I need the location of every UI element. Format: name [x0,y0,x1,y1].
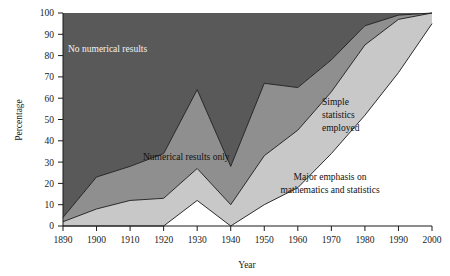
band-label-major-emphasis-line1: Major emphasis on [294,172,367,182]
band-label-simple-statistics-line1: Simple [322,97,349,107]
y-tick-label: 30 [45,158,55,168]
x-tick-label: 1990 [389,235,408,245]
y-tick-label: 50 [45,115,55,125]
band-label-simple-statistics-line3: employed [322,123,360,133]
y-tick-label: 70 [45,72,55,82]
x-axis-ticks-group: 1890190019101920193019401950196019701980… [54,226,442,245]
band-label-simple-statistics-line2: statistics [322,110,355,120]
band-label-no-numerical-results: No numerical results [68,44,147,54]
y-tick-label: 90 [45,30,55,40]
x-tick-label: 1970 [322,235,341,245]
y-tick-label: 100 [40,8,55,18]
x-tick-label: 1900 [87,235,106,245]
x-tick-label: 1890 [54,235,73,245]
area-chart: 0102030405060708090100 18901900191019201… [0,0,450,276]
x-tick-label: 2000 [423,235,442,245]
chart-container: 0102030405060708090100 18901900191019201… [0,0,450,276]
x-tick-label: 1940 [221,235,240,245]
x-tick-label: 1980 [355,235,374,245]
y-tick-label: 0 [49,221,54,231]
y-axis-ticks-group: 0102030405060708090100 [40,8,63,231]
x-tick-label: 1950 [255,235,274,245]
y-tick-label: 20 [45,179,55,189]
y-axis-title: Percentage [14,99,24,141]
x-axis-title: Year [238,260,256,270]
band-label-major-emphasis-line2: mathematics and statistics [280,185,380,195]
x-tick-label: 1920 [154,235,173,245]
y-tick-label: 60 [45,94,55,104]
y-tick-label: 40 [45,136,55,146]
x-tick-label: 1930 [188,235,207,245]
y-tick-label: 10 [45,200,55,210]
y-tick-label: 80 [45,51,55,61]
band-label-numerical-results-only: Numerical results only [143,152,230,162]
x-tick-label: 1910 [121,235,140,245]
x-tick-label: 1960 [288,235,307,245]
